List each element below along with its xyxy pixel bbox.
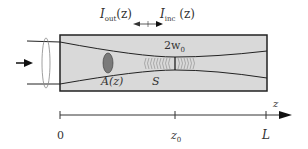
tick-label-z0: z0 <box>171 130 181 144</box>
z-axis <box>60 111 292 119</box>
tick-label-0: 0 <box>57 130 64 141</box>
label-area: A(z) <box>101 76 123 87</box>
intensity-arrows <box>133 21 163 27</box>
label-axis-z: z <box>273 99 278 109</box>
tick-label-L: L <box>262 129 270 141</box>
label-waist: 2w0 <box>164 40 185 54</box>
cross-section-area <box>103 53 113 73</box>
label-i-out: Iout(z) <box>100 8 132 23</box>
input-arrow-icon <box>16 59 33 67</box>
label-i-inc: Iinc (z) <box>160 8 195 23</box>
label-surface: S <box>152 76 160 87</box>
lens-icon <box>42 38 50 88</box>
